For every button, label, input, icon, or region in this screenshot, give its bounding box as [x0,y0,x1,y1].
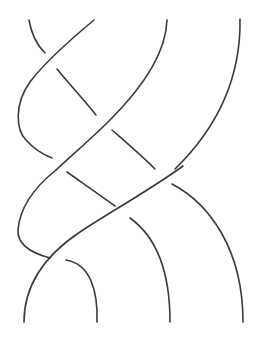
strand-segment [24,166,183,322]
strand-segment [18,170,56,258]
strand-segment [172,184,243,322]
strand-segment [175,19,240,169]
strand-segment [18,20,94,158]
strand-segment [29,20,45,53]
strand-segment [66,260,97,322]
strand-segment [130,218,170,322]
braid-diagram [0,0,261,337]
strand-segment [67,172,115,206]
strand-segment [56,20,167,170]
strand-segment [112,130,155,169]
strand-segment [57,69,96,115]
